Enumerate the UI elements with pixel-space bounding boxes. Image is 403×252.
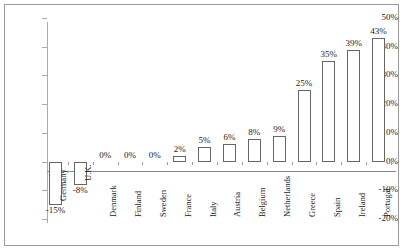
y-axis-tick-label: -20% [364, 214, 398, 223]
y-axis-tick-mark [42, 18, 47, 19]
value-axis-line [47, 22, 48, 223]
x-axis-category-label: Netherlands [283, 176, 292, 217]
bar [198, 147, 211, 161]
x-axis-category-label: Greece [308, 193, 317, 217]
y-axis-tick-mark [42, 219, 47, 220]
x-axis-tick-mark [167, 162, 168, 165]
x-axis-category-label: Belgium [258, 188, 267, 217]
x-axis-category-label: Italy [209, 201, 218, 217]
bar-value-label: -15% [35, 206, 75, 215]
bar-value-label: -8% [60, 186, 100, 195]
y-axis-tick-mark [42, 162, 47, 163]
x-axis-category-label: France [184, 194, 193, 217]
bar-value-label: 35% [309, 50, 349, 59]
bar-value-label: 25% [284, 79, 324, 88]
x-axis-tick-mark [142, 162, 143, 165]
y-axis-tick-mark [42, 104, 47, 105]
x-axis-tick-mark [267, 162, 268, 165]
x-axis-tick-mark [292, 162, 293, 165]
bar-value-label: 43% [359, 27, 399, 36]
bar-value-label: 39% [334, 39, 374, 48]
bar-value-label: 2% [160, 145, 200, 154]
bar [322, 61, 335, 162]
chart-frame: 50%40%30%20%10%0%-10%-20% -15%Germany-8%… [4, 4, 399, 246]
y-axis-tick-mark [42, 47, 47, 48]
x-axis-tick-mark [391, 162, 392, 165]
bar [223, 144, 236, 161]
x-axis-category-label: Denmark [109, 185, 118, 217]
x-axis-category-label: Finland [134, 191, 143, 217]
bar [173, 156, 186, 162]
x-axis-category-label: U.K. [84, 164, 93, 181]
x-axis-category-label: Portugal [383, 188, 392, 217]
x-axis-tick-mark [118, 162, 119, 165]
x-axis-tick-mark [316, 162, 317, 165]
y-axis-tick-mark [42, 75, 47, 76]
bar [372, 38, 385, 161]
x-axis-category-label: Austria [233, 192, 242, 217]
x-axis-tick-mark [68, 162, 69, 165]
bar [248, 139, 261, 162]
x-axis-tick-mark [93, 162, 94, 165]
y-axis-tick-mark [42, 190, 47, 191]
bar [273, 136, 286, 162]
x-axis-category-label: Spain [333, 198, 342, 217]
category-axis-line [47, 171, 396, 172]
bar [347, 50, 360, 162]
x-axis-category-label: Sweden [159, 190, 168, 217]
x-axis-tick-mark [217, 162, 218, 165]
x-axis-tick-mark [192, 162, 193, 165]
y-axis-tick-mark [42, 133, 47, 134]
x-axis-category-label: Ireland [358, 193, 367, 217]
bar [298, 90, 311, 162]
x-axis-tick-mark [341, 162, 342, 165]
y-axis-tick-label: -10% [364, 185, 398, 194]
y-axis-tick-label: 50% [364, 13, 398, 22]
bar-value-label: 9% [259, 125, 299, 134]
chart-figure: 50%40%30%20%10%0%-10%-20% -15%Germany-8%… [0, 0, 403, 252]
x-axis-tick-mark [366, 162, 367, 165]
x-axis-tick-mark [242, 162, 243, 165]
